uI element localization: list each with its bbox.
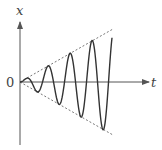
horizontal-axis-label: t — [151, 75, 157, 90]
upper-envelope-line — [20, 29, 113, 82]
growing-oscillation-curve — [20, 38, 112, 130]
origin-label: 0 — [6, 75, 14, 90]
vertical-axis-label: x — [16, 3, 24, 18]
resonance-diagram: x t 0 — [0, 0, 162, 150]
